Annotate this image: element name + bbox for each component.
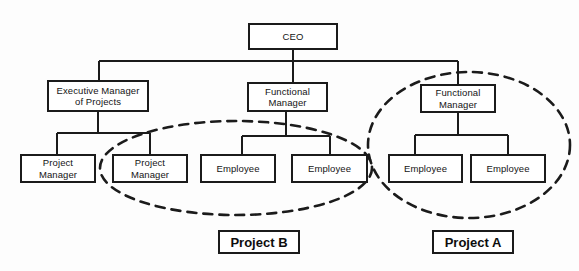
node-employee-3-label: Employee [402, 163, 449, 175]
node-employee-4: Employee [470, 154, 546, 183]
node-functional-manager-center-label: Functional Manager [263, 86, 312, 109]
legend-project-b: Project B [218, 230, 300, 254]
node-ceo: CEO [248, 23, 338, 50]
node-employee-1: Employee [200, 154, 276, 183]
node-project-manager-1-label: Project Manager [37, 157, 79, 180]
node-employee-4-label: Employee [484, 163, 531, 175]
node-functional-manager-right-label: Functional Manager [434, 87, 483, 110]
node-employee-2-label: Employee [306, 163, 353, 175]
node-project-manager-1: Project Manager [20, 154, 96, 183]
node-employee-2: Employee [291, 154, 368, 183]
node-executive-manager-of-projects: Executive Manager of Projects [47, 80, 149, 112]
node-ceo-label: CEO [281, 31, 306, 43]
node-project-manager-2-label: Project Manager [129, 157, 171, 180]
legend-project-a-label: Project A [445, 235, 502, 250]
node-executive-manager-of-projects-label: Executive Manager of Projects [54, 85, 141, 108]
node-functional-manager-right: Functional Manager [420, 84, 496, 113]
node-functional-manager-center: Functional Manager [247, 82, 328, 112]
node-employee-3: Employee [388, 154, 463, 183]
legend-project-b-label: Project B [230, 235, 287, 250]
node-project-manager-2: Project Manager [112, 154, 188, 183]
org-chart-diagram: CEO Executive Manager of Projects Functi… [0, 0, 579, 271]
legend-project-a: Project A [432, 230, 514, 254]
node-employee-1-label: Employee [214, 163, 261, 175]
